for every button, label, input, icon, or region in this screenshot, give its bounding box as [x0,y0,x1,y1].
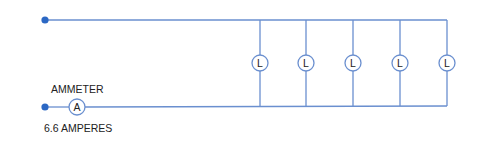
lamp-5: L [439,55,455,71]
terminal-node-bottom [41,103,48,110]
terminal-node-top [41,16,48,23]
circuit-diagram: A L L L L L [0,0,482,142]
lamp-glyph: L [397,57,403,69]
lamp-glyph: L [350,57,356,69]
wires [45,20,447,107]
lamp-glyph: L [444,57,450,69]
lamp-glyph: L [257,57,263,69]
lamp-3: L [345,55,361,71]
lamp-2: L [298,55,314,71]
lamp-4: L [392,55,408,71]
lamp-glyph: L [303,57,309,69]
ammeter-label: AMMETER [51,83,104,95]
lamp-1: L [252,55,268,71]
ammeter-glyph: A [73,101,80,113]
ammeter-symbol: A [69,99,85,115]
ammeter-reading: 6.6 AMPERES [44,122,112,134]
bottom-wire-right [85,106,447,107]
